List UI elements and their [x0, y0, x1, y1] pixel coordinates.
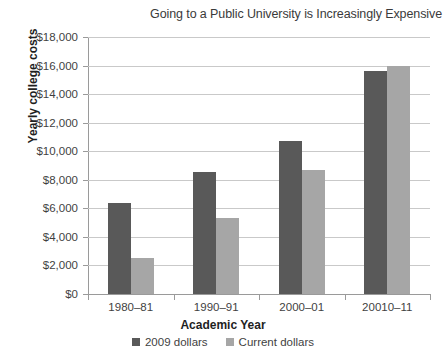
bar[interactable] [302, 170, 325, 294]
bar[interactable] [193, 172, 216, 294]
plot-area [88, 37, 430, 294]
y-axis-tick-label: $6,000 [8, 202, 78, 214]
chart-title: Going to a Public University is Increasi… [0, 5, 442, 23]
bar[interactable] [364, 71, 387, 294]
bar-group [345, 37, 431, 294]
y-axis-tick-label: $4,000 [8, 231, 78, 243]
x-axis-tick-label: 20010–11 [362, 301, 412, 313]
bar-group [88, 37, 174, 294]
bar[interactable] [131, 258, 154, 294]
chart-legend: 2009 dollarsCurrent dollars [0, 336, 446, 348]
y-axis-tick-label: $18,000 [8, 31, 78, 43]
x-axis-tick-label: 2000–01 [279, 301, 324, 313]
x-axis-tick [430, 295, 431, 300]
legend-swatch-icon [226, 338, 234, 346]
x-axis-tick [174, 295, 175, 300]
x-axis-tick [345, 295, 346, 300]
bar-group [174, 37, 260, 294]
y-axis-tick-label: $16,000 [8, 60, 78, 72]
x-axis-title: Academic Year [0, 318, 446, 332]
legend-item[interactable]: 2009 dollars [132, 336, 208, 348]
y-axis-tick-label: $2,000 [8, 259, 78, 271]
y-axis-tick-label: $12,000 [8, 117, 78, 129]
y-axis-tick-label: $14,000 [8, 88, 78, 100]
legend-swatch-icon [132, 338, 140, 346]
bar[interactable] [216, 218, 239, 294]
y-axis-tick-label: $0 [8, 288, 78, 300]
y-axis-tick-label: $10,000 [8, 145, 78, 157]
legend-label: Current dollars [239, 336, 314, 348]
x-axis-tick-label: 1990–91 [194, 301, 239, 313]
legend-label: 2009 dollars [145, 336, 208, 348]
legend-item[interactable]: Current dollars [226, 336, 314, 348]
bar[interactable] [387, 66, 410, 294]
bar-group [259, 37, 345, 294]
bar[interactable] [108, 203, 131, 294]
x-axis-tick [88, 295, 89, 300]
x-axis-tick-label: 1980–81 [108, 301, 153, 313]
bar[interactable] [279, 141, 302, 294]
x-axis-tick [259, 295, 260, 300]
y-axis-tick-label: $8,000 [8, 174, 78, 186]
chart-container: Going to a Public University is Increasi… [0, 0, 446, 354]
